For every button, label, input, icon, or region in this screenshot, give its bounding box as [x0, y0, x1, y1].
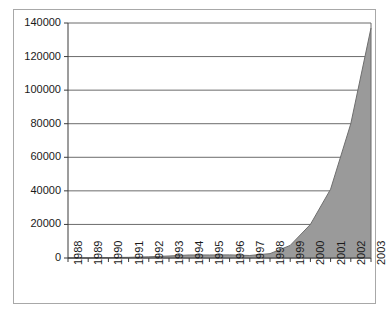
chart-figure: 020000400006000080000100000120000140000 …: [0, 0, 390, 322]
area-chart-canvas: [0, 0, 390, 322]
